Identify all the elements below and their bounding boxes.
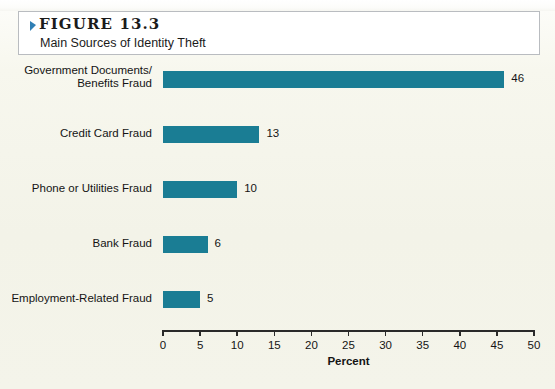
bar-category-line: Benefits Fraud bbox=[0, 77, 152, 90]
bar-category-line: Credit Card Fraud bbox=[60, 127, 152, 139]
bar-row: Government Documents/Benefits Fraud46 bbox=[0, 70, 555, 90]
x-axis-tick-label: 15 bbox=[268, 339, 281, 351]
bar-category-line: Phone or Utilities Fraud bbox=[32, 182, 152, 194]
x-axis-tick bbox=[496, 330, 498, 336]
figure-subtitle: Main Sources of Identity Theft bbox=[40, 36, 206, 50]
x-axis-tick bbox=[533, 330, 535, 336]
page-top-bleed bbox=[0, 0, 555, 11]
x-axis-tick-label: 40 bbox=[453, 339, 466, 351]
bar-row: Credit Card Fraud13 bbox=[0, 125, 555, 145]
bar-category-line: Bank Fraud bbox=[93, 237, 152, 249]
x-axis-tick bbox=[274, 330, 276, 336]
bar-value-label: 6 bbox=[215, 237, 221, 249]
bar bbox=[163, 181, 237, 198]
x-axis-title: Percent bbox=[163, 355, 534, 367]
bar-value-label: 10 bbox=[244, 182, 257, 194]
triangle-marker-icon bbox=[30, 21, 36, 31]
x-axis-tick-label: 50 bbox=[528, 339, 541, 351]
bar bbox=[163, 71, 504, 88]
x-axis-tick-label: 35 bbox=[416, 339, 429, 351]
figure-container: FIGURE 13.3 Main Sources of Identity The… bbox=[0, 0, 555, 389]
x-axis-tick-label: 0 bbox=[160, 339, 166, 351]
bar-category-line: Employment-Related Fraud bbox=[11, 292, 152, 304]
x-axis-tick bbox=[162, 330, 164, 336]
x-axis-tick bbox=[422, 330, 424, 336]
bar-row: Bank Fraud6 bbox=[0, 235, 555, 255]
bar bbox=[163, 291, 200, 308]
bar-category-line: Government Documents/ bbox=[24, 64, 152, 76]
bar bbox=[163, 126, 259, 143]
figure-number-label: FIGURE 13.3 bbox=[39, 15, 160, 33]
x-axis-tick-label: 45 bbox=[490, 339, 503, 351]
bar-category-label: Phone or Utilities Fraud bbox=[0, 182, 152, 195]
x-axis-tick bbox=[199, 330, 201, 336]
bar-category-label: Employment-Related Fraud bbox=[0, 292, 152, 305]
bar-value-label: 5 bbox=[207, 292, 213, 304]
figure-title-box: FIGURE 13.3 Main Sources of Identity The… bbox=[18, 11, 540, 55]
x-axis-tick-label: 10 bbox=[231, 339, 244, 351]
x-axis-tick-label: 30 bbox=[379, 339, 392, 351]
x-axis-tick bbox=[459, 330, 461, 336]
x-axis-tick-label: 20 bbox=[305, 339, 318, 351]
x-axis-tick-label: 25 bbox=[342, 339, 355, 351]
bar-value-label: 46 bbox=[511, 72, 524, 84]
x-axis-tick bbox=[311, 330, 313, 336]
x-axis-tick bbox=[236, 330, 238, 336]
x-axis-tick bbox=[348, 330, 350, 336]
x-axis-tick-label: 5 bbox=[197, 339, 203, 351]
bar-value-label: 13 bbox=[266, 127, 279, 139]
bar-chart: Government Documents/Benefits Fraud46Cre… bbox=[0, 58, 555, 389]
bar-row: Phone or Utilities Fraud10 bbox=[0, 180, 555, 200]
bar-row: Employment-Related Fraud5 bbox=[0, 290, 555, 310]
x-axis-tick bbox=[385, 330, 387, 336]
bar-category-label: Bank Fraud bbox=[0, 237, 152, 250]
bar-category-label: Credit Card Fraud bbox=[0, 127, 152, 140]
bar bbox=[163, 236, 208, 253]
bar-category-label: Government Documents/Benefits Fraud bbox=[0, 64, 152, 89]
